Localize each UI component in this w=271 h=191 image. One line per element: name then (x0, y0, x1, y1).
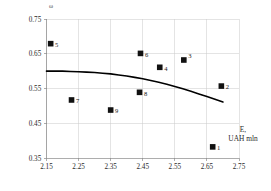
data-point-marker (210, 144, 216, 150)
y-tick-label: 0.55 (29, 85, 42, 93)
y-tick-label: 0.75 (29, 16, 42, 24)
data-point-marker (157, 65, 163, 71)
x-tick-label: 2.55 (169, 163, 182, 171)
data-point-marker (137, 90, 143, 96)
y-axis-title: ω (49, 2, 53, 9)
y-tick-label: 0.45 (29, 120, 42, 128)
x-tick-label: 2.45 (136, 163, 149, 171)
x-tick-label: 2.75 (233, 163, 246, 171)
data-point-label: 2 (226, 83, 229, 90)
data-point-marker (138, 51, 144, 57)
x-tick-label: 2.15 (40, 163, 53, 171)
y-tick-label: 0.65 (29, 50, 42, 58)
y-tick-label: 0.35 (29, 155, 42, 163)
data-point-marker (69, 97, 75, 103)
x-tick-label: 2.65 (201, 163, 214, 171)
scatter-chart: 2.152.252.352.452.552.652.75 0.350.450.5… (0, 0, 271, 191)
x-tick-label: 2.25 (72, 163, 85, 171)
data-point-label: 1 (217, 144, 220, 151)
data-point-marker (108, 107, 114, 113)
chart-container: 2.152.252.352.452.552.652.75 0.350.450.5… (0, 0, 271, 191)
data-point-marker (48, 41, 54, 47)
data-point-marker (219, 83, 225, 89)
data-point-marker (181, 57, 187, 63)
x-tick-label: 2.35 (104, 163, 117, 171)
